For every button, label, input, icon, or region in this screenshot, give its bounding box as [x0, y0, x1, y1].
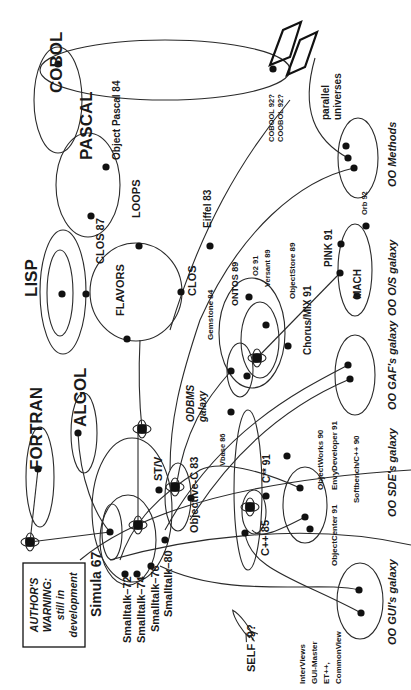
language-node-dot	[262, 321, 269, 328]
language-node-dot	[245, 293, 252, 300]
label-guimaster: GUI-Master	[310, 641, 319, 684]
language-node-dot	[161, 536, 168, 543]
label-pink91: PINK 91	[323, 229, 334, 267]
label-self: SELF -9?	[245, 624, 257, 672]
label-st76: Smalltalk–76	[149, 565, 161, 632]
label-ontos: ONTOS 89	[230, 262, 240, 306]
label-interviews: InterViews	[298, 644, 307, 684]
oo-gui-ellipse	[337, 563, 383, 639]
label-commonview: CommonView	[334, 630, 343, 684]
label-fortran: FORTRAN	[27, 387, 46, 470]
language-node-dot	[284, 342, 291, 349]
label-objectstore: ObjectStore 89	[288, 242, 297, 299]
label-parallel: parallel	[320, 85, 331, 120]
label-st80: Smalltalk–80	[162, 550, 174, 617]
algol-to-simula-line	[78, 433, 110, 532]
label-galaxy-odbms: galaxy	[197, 390, 208, 423]
label-clos: CLOS	[186, 265, 198, 296]
atom-icon	[21, 533, 39, 551]
label-softbench: Softbench/C++ 90	[352, 435, 361, 503]
label-orb92: Orb 92	[360, 191, 369, 215]
language-node-dot	[362, 222, 369, 229]
label-universes: universes	[332, 73, 343, 120]
language-node-dot	[350, 164, 357, 171]
language-node-dot	[344, 361, 351, 368]
clos-to-stv-line	[139, 340, 142, 429]
language-node-dot	[344, 154, 351, 161]
oo-methods-ellipse	[338, 118, 378, 198]
language-node-dot	[301, 513, 308, 520]
language-node-dot	[337, 240, 344, 247]
label-cplusplus91: C** 91	[261, 454, 272, 483]
language-node-dot	[135, 242, 142, 249]
language-node-dot	[243, 372, 250, 379]
upper-long-line	[80, 470, 411, 560]
language-node-dot	[227, 367, 234, 374]
label-coobol: COOBOL 92?	[276, 94, 285, 142]
atom-icon	[133, 420, 151, 438]
gui-line-1	[160, 566, 359, 590]
label-chorus: Chorus/MIX 91	[302, 285, 313, 355]
label-etpp: ET++,	[322, 662, 331, 684]
label-clos87: CLOS 87	[94, 218, 106, 264]
label-odbms: ODBMS	[185, 384, 196, 422]
label-mach: MACH	[352, 269, 363, 299]
label-oo-gui: OO GUI's galaxy	[386, 558, 398, 645]
odbms-mid-ellipse	[241, 302, 279, 378]
label-lisp: LISP	[22, 259, 41, 297]
oo-universe-diagram: COBOLPASCALObject Pascal 84LOOPSCLOS 87L…	[0, 0, 411, 690]
language-node-dot	[82, 290, 89, 297]
label-oo-os: OO O/S galaxy	[386, 239, 398, 316]
language-node-dot	[102, 163, 109, 170]
label-cplusplus85: C++ 85	[259, 520, 271, 556]
label-loops: LOOPS	[130, 179, 142, 218]
language-node-dot	[355, 586, 362, 593]
diagram-canvas: COBOLPASCALObject Pascal 84LOOPSCLOS 87L…	[0, 0, 411, 690]
language-node-dot	[177, 288, 184, 295]
atom-symbols	[21, 349, 266, 551]
language-node-dot	[306, 525, 313, 532]
warning-line: AUTHOR'S	[28, 578, 40, 633]
language-node-dot	[123, 335, 130, 342]
language-node-dot	[241, 529, 248, 536]
warning-line: development	[67, 572, 79, 637]
label-vbase: Vbase 86	[218, 433, 227, 466]
label-objective-c: Objective-C 83	[188, 457, 200, 533]
fortran-to-atom-line	[30, 469, 38, 542]
language-node-dot	[283, 452, 290, 459]
label-object-pascal: Object Pascal 84	[111, 80, 122, 160]
label-flavors: FLAVORS	[114, 264, 126, 316]
warning-line: still in	[54, 590, 66, 620]
language-node-dot	[262, 492, 269, 499]
label-st74: Smalltalk–74	[135, 575, 147, 643]
oo-gaf-ellipse	[335, 335, 375, 415]
label-st72: Smalltalk–72	[121, 576, 133, 643]
warning-line: WARNING:	[41, 578, 53, 632]
label-envy: EnvyDeveloper 91	[330, 421, 339, 490]
label-gemstone: Gemstone 84	[206, 289, 215, 340]
language-node-dot	[357, 609, 364, 616]
label-o2: O2 91	[251, 256, 260, 276]
sde-to-smalltalk-line	[120, 466, 300, 560]
parallel-universes-icon	[270, 22, 317, 75]
language-node-dot	[269, 65, 276, 72]
author-warning-text: AUTHOR'SWARNING:still indevelopment	[28, 572, 79, 637]
label-eiffel: Eiffel 83	[202, 189, 213, 228]
language-node-dot	[58, 290, 65, 297]
label-versant: Versant 89	[263, 249, 272, 287]
label-cobool: COBOOL 92?	[267, 94, 276, 142]
language-node-dot	[74, 429, 81, 436]
language-node-dot	[106, 528, 113, 535]
label-pascal: PASCAL	[77, 91, 96, 160]
label-algol: ALGOL	[71, 368, 90, 428]
language-node-dot	[227, 408, 234, 415]
label-oo-methods: OO Methods	[386, 122, 398, 187]
c-to-methods-line	[170, 168, 354, 470]
label-stv: ST/V	[152, 456, 164, 481]
language-node-dot	[206, 242, 213, 249]
label-oo-sde: OO SDE's galaxy	[386, 427, 398, 517]
label-simula: Simula 67	[88, 551, 104, 617]
label-oo-gaf: OO GAF's galaxy	[386, 320, 398, 410]
label-cobol: COBOL	[47, 32, 66, 93]
label-objectcenter: ObjectCenter 91	[330, 504, 339, 566]
